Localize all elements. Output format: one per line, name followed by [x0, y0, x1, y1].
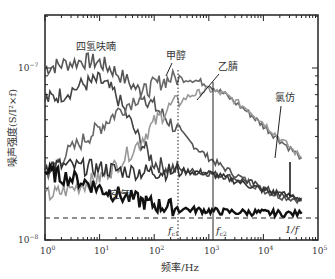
annotation-1-over-f: 1/f [285, 224, 301, 235]
y-tick-label-top: 10−7 [18, 61, 38, 73]
annotation-chloroform: 氯仿 [275, 91, 295, 103]
pointer-chloroform [275, 106, 281, 158]
noise-spectrum-chart: 10−7 10−8 100 101 102 103 104 105 频率/Hz … [0, 0, 335, 279]
x-tick-label: 103 [204, 244, 219, 256]
annotation-acetonitrile: 乙腈 [218, 60, 238, 72]
annotation-fc2: fc2 [215, 225, 227, 237]
x-tick-label: 105 [312, 244, 327, 256]
annotation-air: 空气 [110, 188, 130, 200]
annotation-methanol: 甲醇 [166, 49, 186, 61]
y-axis-title: 噪声强度(S/I²×f) [6, 89, 18, 167]
pointer-methanol [166, 63, 172, 76]
pointer-acetonitrile [197, 74, 219, 100]
annotation-fc1: fc1 [167, 225, 179, 237]
annotation-thf: 四氢呋喃 [76, 40, 116, 52]
x-tick-label: 102 [149, 244, 164, 256]
series-curves [45, 53, 302, 217]
x-tick-label: 104 [258, 244, 273, 256]
x-axis-title: 频率/Hz [161, 261, 198, 273]
y-tick-label-bottom: 10−8 [18, 233, 38, 245]
x-tick-labels: 100 101 102 103 104 105 [40, 244, 327, 256]
x-tick-label: 101 [94, 244, 109, 256]
x-tick-label: 100 [40, 244, 55, 256]
